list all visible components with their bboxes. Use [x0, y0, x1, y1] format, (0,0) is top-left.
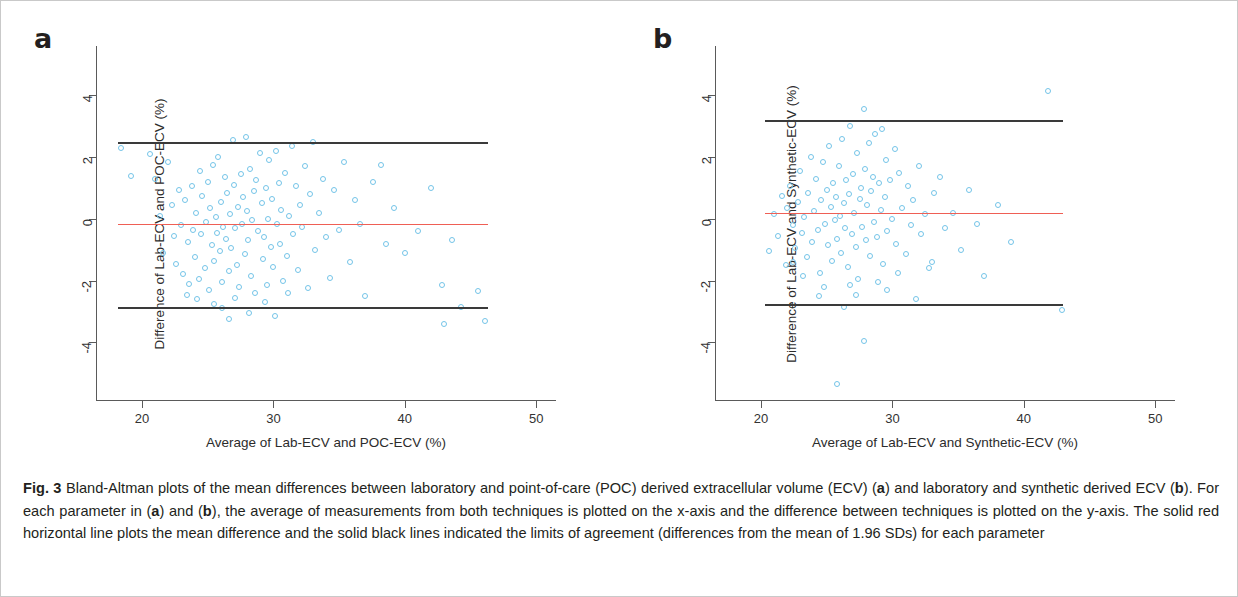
- data-point: [876, 180, 882, 186]
- data-point: [128, 173, 134, 179]
- data-point: [428, 185, 434, 191]
- data-point: [895, 270, 901, 276]
- x-tick-label-b: 30: [885, 411, 899, 426]
- data-point: [1008, 239, 1014, 245]
- data-point: [352, 197, 358, 203]
- x-tick-label-a: 30: [266, 411, 280, 426]
- data-point: [323, 234, 329, 240]
- data-point: [184, 292, 190, 298]
- y-tick-label-b: 2: [699, 157, 714, 164]
- upper-limit-of-agreement-line-b: [765, 120, 1063, 122]
- data-point: [391, 205, 397, 211]
- data-point: [482, 318, 488, 324]
- data-point: [362, 293, 368, 299]
- data-point: [176, 187, 182, 193]
- data-point: [821, 284, 827, 290]
- data-point: [883, 157, 889, 163]
- data-point: [259, 200, 265, 206]
- data-point: [238, 171, 244, 177]
- data-point: [799, 230, 805, 236]
- data-point: [884, 287, 890, 293]
- data-point: [843, 177, 849, 183]
- data-point: [880, 261, 886, 267]
- data-point: [847, 282, 853, 288]
- y-tick-label-a: -4: [80, 342, 95, 354]
- data-point: [893, 241, 899, 247]
- x-tick-b: [761, 401, 762, 408]
- data-point: [875, 279, 881, 285]
- x-tick-label-b: 20: [754, 411, 768, 426]
- data-point: [262, 299, 268, 305]
- data-point: [199, 193, 205, 199]
- data-point: [905, 183, 911, 189]
- data-point: [884, 228, 890, 234]
- figure-caption: Fig. 3 Bland-Altman plots of the mean di…: [23, 477, 1219, 545]
- data-point: [215, 154, 221, 160]
- data-point: [244, 208, 250, 214]
- data-point: [293, 183, 299, 189]
- data-point: [217, 248, 223, 254]
- data-point: [899, 205, 905, 211]
- data-point: [931, 190, 937, 196]
- data-point: [327, 275, 333, 281]
- x-tick-a: [536, 401, 537, 408]
- data-point: [908, 222, 914, 228]
- data-point: [847, 123, 853, 129]
- data-point: [1045, 88, 1051, 94]
- data-point: [800, 273, 806, 279]
- data-point: [280, 278, 286, 284]
- data-point: [192, 254, 198, 260]
- data-point: [853, 292, 859, 298]
- mean-difference-line-a: [118, 224, 487, 225]
- data-point: [849, 231, 855, 237]
- data-point: [916, 163, 922, 169]
- data-point: [160, 250, 166, 256]
- x-axis-a: [96, 400, 556, 401]
- data-point: [285, 290, 291, 296]
- y-tick-label-b: -4: [699, 342, 714, 354]
- data-point: [981, 273, 987, 279]
- data-point: [171, 233, 177, 239]
- upper-limit-of-agreement-line-a: [118, 142, 487, 144]
- data-point: [882, 194, 888, 200]
- data-point: [896, 170, 902, 176]
- data-point: [165, 159, 171, 165]
- data-point: [211, 258, 217, 264]
- panel-b-letter: b: [653, 25, 672, 52]
- data-point: [270, 264, 276, 270]
- data-point: [245, 237, 251, 243]
- data-point: [347, 259, 353, 265]
- data-point: [966, 187, 972, 193]
- data-point: [194, 296, 200, 302]
- data-point: [182, 197, 188, 203]
- data-point: [854, 150, 860, 156]
- figure-caption-text: Bland-Altman plots of the mean differenc…: [23, 480, 1219, 541]
- data-point: [841, 200, 847, 206]
- data-point: [929, 259, 935, 265]
- data-point: [226, 316, 232, 322]
- data-point: [341, 159, 347, 165]
- y-tick-label-b: -2: [699, 281, 714, 293]
- data-point: [205, 179, 211, 185]
- data-point: [1059, 307, 1065, 313]
- figure-3: a Difference of Lab-ECV and POC-ECV (%) …: [0, 0, 1238, 597]
- data-point: [834, 381, 840, 387]
- data-point: [206, 287, 212, 293]
- data-point: [234, 262, 240, 268]
- data-point: [441, 321, 447, 327]
- data-point: [232, 295, 238, 301]
- data-point: [370, 179, 376, 185]
- data-point: [265, 216, 271, 222]
- y-tick-label-b: 4: [699, 95, 714, 102]
- data-point: [252, 290, 258, 296]
- y-axis-a: [96, 46, 97, 401]
- x-tick-label-a: 40: [398, 411, 412, 426]
- x-tick-a: [142, 401, 143, 408]
- data-point: [302, 163, 308, 169]
- data-point: [974, 221, 980, 227]
- data-point: [862, 166, 868, 172]
- data-point: [832, 217, 838, 223]
- lower-limit-of-agreement-line-a: [118, 307, 487, 309]
- data-point: [231, 182, 237, 188]
- data-point: [995, 202, 1001, 208]
